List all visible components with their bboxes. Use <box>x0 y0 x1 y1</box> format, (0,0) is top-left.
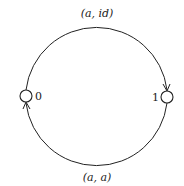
edge-label-top: (a, id) <box>81 7 114 20</box>
edge-0-to-1 <box>26 27 167 90</box>
node-0[interactable] <box>20 90 32 102</box>
node-1-label: 1 <box>152 91 159 104</box>
edge-label-bottom: (a, a) <box>83 171 112 184</box>
node-1[interactable] <box>161 91 173 103</box>
node-0-label: 0 <box>35 90 42 103</box>
edge-1-to-0 <box>26 103 167 166</box>
state-diagram: 0 1 (a, id) (a, a) <box>0 0 184 186</box>
